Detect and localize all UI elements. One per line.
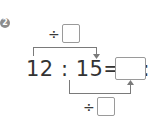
- bottom-bracket-right: [130, 84, 131, 94]
- bottom-bracket-left: [69, 80, 70, 94]
- bottom-divide-sign: ÷: [83, 100, 95, 114]
- problem-number-badge: 2: [0, 18, 10, 28]
- top-bracket-left: [33, 47, 34, 56]
- top-bracket-horizontal: [33, 47, 97, 48]
- bottom-divisor-input-box[interactable]: [97, 97, 115, 116]
- bottom-bracket-horizontal: [69, 93, 131, 94]
- arrow-up-icon: [127, 80, 134, 85]
- answer-input-box[interactable]: [115, 57, 146, 80]
- top-divisor-input-box[interactable]: [62, 24, 80, 43]
- top-divide-sign: ÷: [48, 27, 60, 41]
